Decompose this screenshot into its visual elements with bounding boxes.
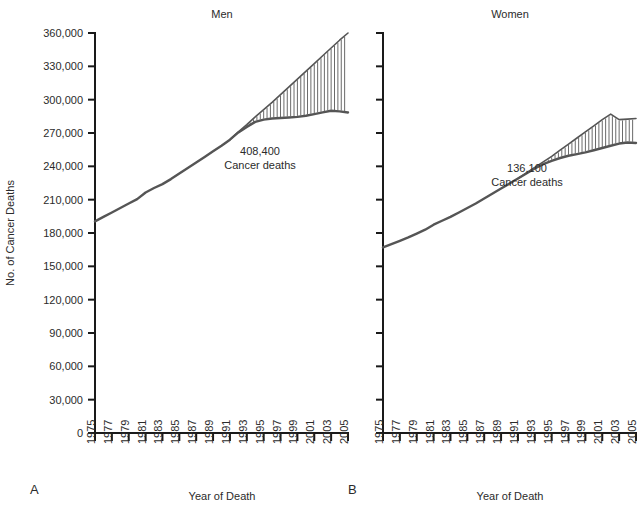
x-tick-label: 1993 xyxy=(237,420,249,444)
observed-curve-men xyxy=(95,111,348,222)
annotation-label-women: Cancer deaths xyxy=(491,176,563,188)
x-tick-label: 1977 xyxy=(102,420,114,444)
x-tick-label: 1981 xyxy=(424,420,436,444)
x-tick-label: 2003 xyxy=(609,420,621,444)
x-tick-label: 1975 xyxy=(373,420,385,444)
x-tick-label: 1995 xyxy=(542,420,554,444)
x-tick-label: 2005 xyxy=(338,420,350,444)
panel-women: Women 1975197719791981198319851987198919… xyxy=(348,8,638,502)
y-axis-title: No. of Cancer Deaths xyxy=(4,180,16,286)
figure-container: Men 030,00060,00090,000120,000150,000180… xyxy=(0,0,641,509)
y-tick-label: 0 xyxy=(77,427,83,439)
panel-title-women: Women xyxy=(491,8,529,20)
panel-title-men: Men xyxy=(211,8,232,20)
x-tick-label: 2001 xyxy=(304,420,316,444)
x-tick-label: 1985 xyxy=(457,420,469,444)
x-tick-label: 1987 xyxy=(474,420,486,444)
panel-letter-b: B xyxy=(348,482,357,497)
y-tick-label: 90,000 xyxy=(49,327,83,339)
y-tick-label: 120,000 xyxy=(43,294,83,306)
x-tick-label: 1985 xyxy=(169,420,181,444)
y-tick-label: 270,000 xyxy=(43,127,83,139)
y-tick-labels-men: 030,00060,00090,000120,000150,000180,000… xyxy=(43,27,83,439)
x-tick-label: 1979 xyxy=(407,420,419,444)
x-tick-label: 1983 xyxy=(440,420,452,444)
observed-curve-women xyxy=(383,142,636,247)
y-tick-label: 180,000 xyxy=(43,227,83,239)
x-tick-label: 1991 xyxy=(508,420,520,444)
x-tick-label: 1979 xyxy=(119,420,131,444)
x-tick-label: 1977 xyxy=(390,420,402,444)
y-tick-label: 240,000 xyxy=(43,160,83,172)
x-axis-title-women: Year of Death xyxy=(477,490,544,502)
x-tick-label: 1983 xyxy=(152,420,164,444)
y-tick-label: 30,000 xyxy=(49,394,83,406)
y-tick-label: 210,000 xyxy=(43,194,83,206)
y-tick-label: 300,000 xyxy=(43,94,83,106)
x-tick-label: 2001 xyxy=(592,420,604,444)
x-tick-label: 1999 xyxy=(575,420,587,444)
x-tick-label: 1989 xyxy=(491,420,503,444)
y-tick-label: 150,000 xyxy=(43,260,83,272)
annotation-label-men: Cancer deaths xyxy=(224,159,296,171)
x-tick-label: 1975 xyxy=(85,420,97,444)
x-tick-label: 2005 xyxy=(626,420,638,444)
x-tick-label: 1981 xyxy=(136,420,148,444)
x-tick-label: 1997 xyxy=(271,420,283,444)
y-tick-label: 360,000 xyxy=(43,27,83,39)
x-tick-labels-women: 1975197719791981198319851987198919911993… xyxy=(373,420,638,444)
x-tick-label: 2003 xyxy=(321,420,333,444)
x-tick-label: 1999 xyxy=(287,420,299,444)
cancer-deaths-chart: Men 030,00060,00090,000120,000150,000180… xyxy=(0,0,641,509)
y-ticks-men xyxy=(88,33,95,433)
x-tick-label: 1991 xyxy=(220,420,232,444)
x-axis-title-men: Year of Death xyxy=(189,490,256,502)
y-ticks-women xyxy=(376,33,383,433)
x-tick-label: 1997 xyxy=(559,420,571,444)
panel-men: Men 030,00060,00090,000120,000150,000180… xyxy=(30,8,350,502)
panel-letter-a: A xyxy=(30,482,39,497)
annotation-value-women: 136,100 xyxy=(507,162,547,174)
x-tick-label: 1989 xyxy=(203,420,215,444)
x-tick-labels-men: 1975197719791981198319851987198919911993… xyxy=(85,420,350,444)
y-tick-label: 330,000 xyxy=(43,60,83,72)
x-tick-label: 1995 xyxy=(254,420,266,444)
y-tick-label: 60,000 xyxy=(49,360,83,372)
x-tick-label: 1987 xyxy=(186,420,198,444)
x-tick-label: 1993 xyxy=(525,420,537,444)
hatch-region-women xyxy=(538,116,632,166)
annotation-value-men: 408,400 xyxy=(240,145,280,157)
projected-curve-men xyxy=(230,33,348,140)
